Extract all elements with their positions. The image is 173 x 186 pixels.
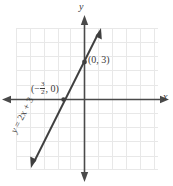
x-intercept-zero-close: , 0) [45,83,58,94]
fraction-three-halves: 32 [40,81,46,97]
coordinate-plane-figure: y x (0, 3) (−32, 0) y = 2x + 3 [0,0,173,186]
point-marker-y-intercept [82,60,87,65]
fraction-numerator: 3 [40,81,46,88]
y-axis-label: y [79,2,83,12]
x-axis-label: x [163,92,167,102]
fraction-denominator: 2 [40,88,46,96]
graph-canvas [0,0,173,186]
y-intercept-point-label: (0, 3) [88,55,110,65]
point-marker-x-intercept [61,97,65,101]
x-intercept-point-label: (−32, 0) [31,82,59,98]
line-graph [30,28,102,168]
